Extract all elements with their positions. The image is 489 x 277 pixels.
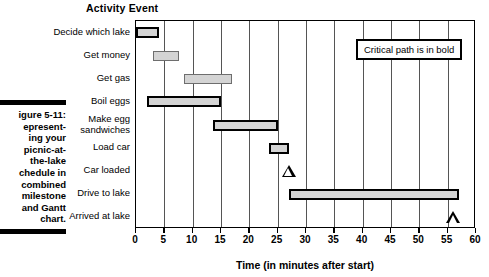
x-axis-title: Time (in minutes after start) — [135, 259, 475, 271]
gantt-chart: Activity Event Decide which lakeGet mone… — [0, 0, 489, 277]
activity-label: Get gas — [10, 72, 130, 83]
activity-label: Decide which lake — [10, 26, 130, 37]
x-tick-mark — [475, 228, 476, 233]
x-tick-label: 20 — [243, 234, 254, 245]
x-tick-label: 35 — [328, 234, 339, 245]
gantt-bar — [153, 51, 179, 61]
x-tick-label: 10 — [186, 234, 197, 245]
x-axis-ticks: 051015202530354045505560 — [135, 228, 475, 252]
gridline — [278, 21, 279, 227]
chart-title: Activity Event — [86, 2, 158, 14]
x-tick-mark — [192, 228, 193, 233]
x-tick-mark — [248, 228, 249, 233]
activity-label: Load car — [10, 141, 130, 152]
x-tick-mark — [333, 228, 334, 233]
x-tick-mark — [447, 228, 448, 233]
x-tick-mark — [390, 228, 391, 233]
x-tick-mark — [135, 228, 136, 233]
activity-label-line: sandwiches — [10, 124, 130, 135]
activity-label-column: Decide which lakeGet moneyGet gasBoil eg… — [8, 20, 130, 228]
x-tick-mark — [277, 228, 278, 233]
x-tick-label: 45 — [384, 234, 395, 245]
activity-label: Make eggsandwiches — [10, 113, 130, 135]
x-tick-label: 15 — [214, 234, 225, 245]
activity-label: Get money — [10, 49, 130, 60]
legend-note: Critical path is in bold — [356, 39, 462, 60]
x-tick-label: 55 — [441, 234, 452, 245]
activity-label-line: Make egg — [10, 113, 130, 124]
x-tick-label: 40 — [356, 234, 367, 245]
x-tick-mark — [163, 228, 164, 233]
x-tick-label: 5 — [161, 234, 167, 245]
milestone-triangle-inner — [449, 215, 457, 223]
x-tick-label: 50 — [413, 234, 424, 245]
activity-label: Drive to lake — [10, 187, 130, 198]
gantt-bar — [147, 96, 221, 107]
gantt-bar — [213, 120, 278, 131]
gantt-bar — [269, 143, 289, 154]
x-tick-mark — [362, 228, 363, 233]
gantt-bar — [184, 74, 232, 84]
gantt-bar — [136, 27, 159, 38]
x-tick-label: 0 — [132, 234, 138, 245]
x-tick-mark — [418, 228, 419, 233]
activity-label: Arrived at lake — [10, 210, 130, 221]
milestone-triangle-inner — [284, 168, 292, 176]
activity-label: Boil eggs — [10, 95, 130, 106]
activity-label: Car loaded — [10, 164, 130, 175]
x-tick-label: 30 — [299, 234, 310, 245]
x-tick-mark — [220, 228, 221, 233]
gantt-bar — [289, 189, 459, 200]
x-tick-label: 60 — [469, 234, 480, 245]
x-tick-label: 25 — [271, 234, 282, 245]
gridline — [193, 21, 194, 227]
x-tick-mark — [305, 228, 306, 233]
